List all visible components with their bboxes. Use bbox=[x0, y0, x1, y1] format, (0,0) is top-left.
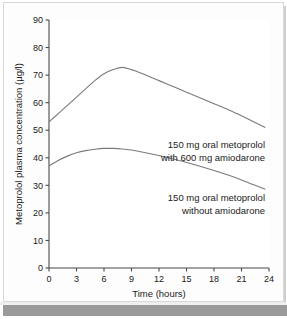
x-tick-label: 3 bbox=[74, 274, 79, 284]
y-tick-label: 20 bbox=[33, 208, 43, 218]
y-tick-label: 10 bbox=[33, 236, 43, 246]
x-tick-label: 18 bbox=[209, 274, 219, 284]
y-tick-label: 90 bbox=[33, 15, 43, 25]
x-axis-title: Time (hours) bbox=[132, 288, 186, 299]
annotation-with-amiodarone-line1: 150 mg oral metoprolol bbox=[168, 139, 265, 150]
y-tick-label: 80 bbox=[33, 43, 43, 53]
y-tick-label: 70 bbox=[33, 70, 43, 80]
x-tick-label: 24 bbox=[264, 274, 274, 284]
y-tick-label: 60 bbox=[33, 98, 43, 108]
x-tick-label: 0 bbox=[46, 274, 51, 284]
y-axis-tick-labels: 0102030405060708090 bbox=[33, 15, 43, 273]
y-tick-label: 30 bbox=[33, 181, 43, 191]
y-tick-label: 40 bbox=[33, 153, 43, 163]
annotation-without-amiodarone-line2: without amiodarone bbox=[181, 205, 265, 216]
x-tick-label: 15 bbox=[181, 274, 191, 284]
x-tick-label: 21 bbox=[236, 274, 246, 284]
figure-root: 0102030405060708090 03691215182124 Time … bbox=[0, 0, 287, 319]
line-chart: 0102030405060708090 03691215182124 Time … bbox=[0, 0, 287, 319]
x-tick-label: 6 bbox=[101, 274, 106, 284]
y-axis-title: Metoprolol plasma concentration (µg/l) bbox=[13, 63, 24, 225]
y-tick-label: 0 bbox=[38, 263, 43, 273]
annotation-without-amiodarone-line1: 150 mg oral metoprolol bbox=[168, 192, 265, 203]
x-tick-label: 12 bbox=[154, 274, 164, 284]
x-tick-label: 9 bbox=[129, 274, 134, 284]
x-axis-tick-labels: 03691215182124 bbox=[46, 274, 274, 284]
y-tick-label: 50 bbox=[33, 125, 43, 135]
annotation-with-amiodarone-line2: with 600 mg amiodarone bbox=[160, 152, 265, 163]
